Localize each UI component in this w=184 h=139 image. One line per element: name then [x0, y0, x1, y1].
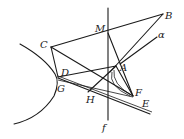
- label-B: B: [164, 10, 172, 21]
- segment-CB: [51, 14, 163, 47]
- angle-arc-2: [114, 70, 131, 95]
- segment-AB: [110, 14, 163, 72]
- label-G: G: [57, 83, 65, 94]
- label-f: f: [101, 122, 108, 133]
- label-H: H: [85, 94, 95, 105]
- label-E: E: [141, 98, 150, 109]
- label-C: C: [40, 39, 48, 50]
- label-A: A: [119, 62, 127, 73]
- label-M: M: [94, 23, 106, 34]
- geometry-diagram: B M α C A D G H F E f: [0, 0, 184, 139]
- curve: [14, 44, 57, 124]
- label-D: D: [60, 67, 69, 78]
- label-F: F: [134, 87, 143, 98]
- label-alpha: α: [158, 29, 165, 40]
